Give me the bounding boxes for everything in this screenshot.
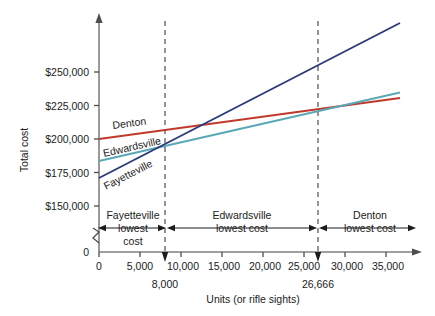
- y-axis-title: Total cost: [18, 128, 30, 172]
- x-tick-label-5000: 5,000: [127, 260, 153, 272]
- range-label-denton-line1: Denton: [353, 209, 387, 221]
- range-annotation-denton: Denton lowest cost: [319, 209, 416, 234]
- x-tick-label-25000: 25,000: [288, 260, 320, 272]
- intersection-label-8000: 8,000: [152, 278, 178, 290]
- x-tick-label-35000: 35,000: [372, 260, 404, 272]
- series-line-fayetteville: [99, 23, 400, 178]
- range-label-fayetteville-line2: lowest: [118, 222, 148, 234]
- y-tick-label-150000: $150,000: [45, 200, 89, 212]
- x-axis-title: Units (or rifle sights): [206, 293, 299, 305]
- range-label-denton-line2: lowest cost: [344, 222, 396, 234]
- y-tick-label-175000: $175,000: [45, 167, 89, 179]
- x-tick-label-10000: 10,000: [167, 260, 199, 272]
- range-annotation-edwardsville: Edwardsville lowest cost: [167, 209, 317, 234]
- intersection-label-26666: 26,666: [302, 278, 334, 290]
- x-tick-label-0: 0: [96, 260, 102, 272]
- x-tick-label-15000: 15,000: [208, 260, 240, 272]
- x-tick-label-30000: 30,000: [331, 260, 363, 272]
- x-axis: [99, 248, 422, 255]
- x-tick-label-20000: 20,000: [249, 260, 281, 272]
- range-label-edwardsville-line1: Edwardsville: [213, 209, 272, 221]
- intersection-line-8000: [162, 21, 168, 262]
- range-label-edwardsville-line2: lowest cost: [216, 222, 268, 234]
- cost-comparison-chart: $250,000 $225,000 $200,000 $175,000 $150…: [0, 0, 435, 316]
- intersection-line-26666: [315, 21, 321, 262]
- y-tick-label-225000: $225,000: [45, 100, 89, 112]
- series-label-denton: Denton: [112, 114, 147, 131]
- y-axis-zero-label: 0: [83, 246, 89, 258]
- y-tick-label-250000: $250,000: [45, 66, 89, 78]
- range-label-fayetteville-line1: Fayetteville: [106, 209, 159, 221]
- chart-canvas: $250,000 $225,000 $200,000 $175,000 $150…: [0, 0, 435, 316]
- y-axis: [95, 13, 102, 252]
- axis-break-marker: [93, 228, 99, 243]
- y-tick-label-200000: $200,000: [45, 133, 89, 145]
- range-label-fayetteville-line3: cost: [123, 235, 142, 247]
- range-annotation-fayetteville: Fayetteville lowest cost: [98, 209, 166, 247]
